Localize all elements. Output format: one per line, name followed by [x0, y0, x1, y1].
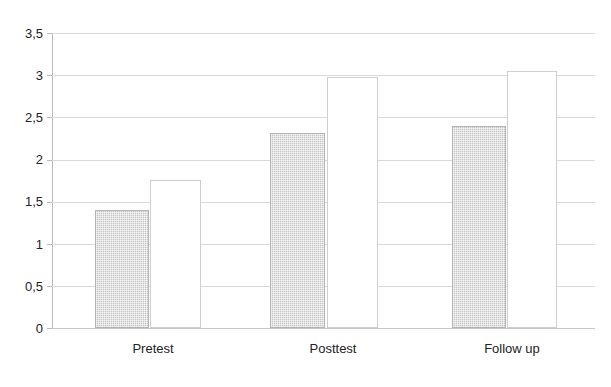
y-tick-label-2: 2	[0, 153, 43, 166]
gridline-3-5	[52, 33, 595, 34]
bar-posttest-series-2	[327, 77, 378, 328]
plot-area	[52, 33, 595, 328]
y-tick-label-3: 3	[0, 69, 43, 82]
x-tick-label-pretest: Pretest	[103, 341, 203, 356]
y-tick-label-2-5: 2,5	[0, 111, 43, 124]
y-tick-label-1: 1	[0, 238, 43, 251]
gridline-0-baseline	[52, 328, 595, 329]
y-tick-label-0: 0	[0, 322, 43, 335]
bar-followup-series-1	[452, 126, 506, 328]
bar-pretest-series-1	[95, 210, 149, 328]
x-tick-label-followup: Follow up	[462, 341, 562, 356]
y-tick-label-1-5: 1,5	[0, 195, 43, 208]
y-tick-label-3-5: 3,5	[0, 27, 43, 40]
bar-posttest-series-1	[270, 133, 325, 328]
y-tick-label-0-5: 0,5	[0, 280, 43, 293]
bar-chart: 3,5 3 2,5 2 1,5 1 0,5 0 Pret	[0, 0, 611, 387]
bar-pretest-series-2	[150, 180, 201, 328]
x-tick-label-posttest: Posttest	[283, 341, 383, 356]
bar-followup-series-2	[507, 71, 557, 328]
